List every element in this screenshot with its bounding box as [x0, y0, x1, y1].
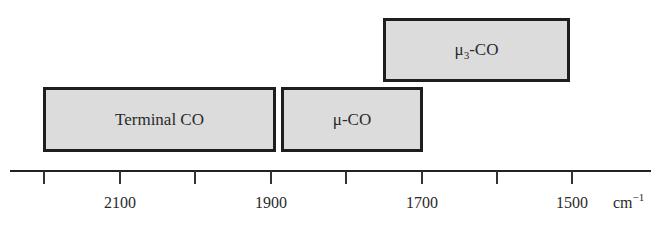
tick-2000	[194, 171, 196, 184]
band-label-mu-co: μ-CO	[333, 110, 371, 130]
tick-1800	[345, 171, 347, 184]
tick-label-1500: 1500	[556, 194, 588, 212]
band-mu3-co: μ3-CO	[383, 18, 570, 82]
tick-1900	[270, 171, 272, 184]
ir-co-stretch-diagram: Terminal CO μ-CO μ3-CO 2100 1900 1700 15…	[0, 0, 658, 227]
tick-1700	[421, 171, 423, 184]
tick-label-2100: 2100	[104, 194, 136, 212]
band-label-terminal-co: Terminal CO	[115, 110, 204, 130]
x-axis-line	[10, 170, 651, 172]
tick-2100	[119, 171, 121, 184]
tick-label-1900: 1900	[255, 194, 287, 212]
band-label-mu3-co: μ3-CO	[455, 40, 499, 60]
unit-exponent: −1	[633, 191, 645, 203]
band-mu-co: μ-CO	[281, 87, 423, 152]
tick-1600	[496, 171, 498, 184]
tick-label-1700: 1700	[406, 194, 438, 212]
axis-unit-label: cm−1	[613, 194, 644, 212]
co-suffix: -CO	[469, 40, 498, 59]
unit-base: cm	[613, 194, 633, 211]
band-terminal-co: Terminal CO	[43, 87, 276, 152]
tick-2200	[43, 171, 45, 184]
tick-1500	[571, 171, 573, 184]
mu-symbol: μ	[455, 40, 464, 59]
